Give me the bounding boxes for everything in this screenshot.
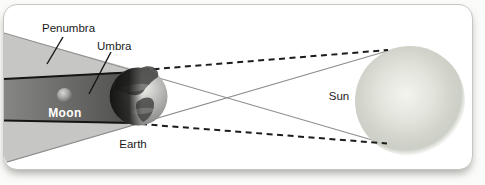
penumbra-label: Penumbra: [42, 22, 96, 34]
moon-sphere: [57, 88, 72, 103]
earth-label: Earth: [119, 138, 147, 150]
eclipse-diagram: Penumbra Umbra Moon Earth Sun: [0, 0, 485, 185]
moon-label: Moon: [48, 106, 82, 120]
sun-sphere: [355, 46, 465, 156]
dashed-ray-top: [143, 50, 388, 70]
figure-stage: Penumbra Umbra Moon Earth Sun: [0, 0, 485, 185]
earth-night-side: [110, 68, 168, 126]
umbra-label: Umbra: [97, 40, 132, 52]
sun-label: Sun: [329, 90, 349, 102]
